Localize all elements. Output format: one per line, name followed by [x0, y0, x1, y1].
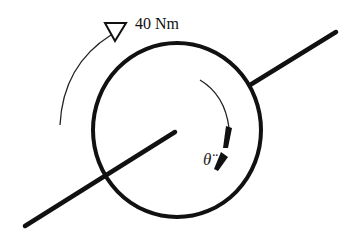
disk-shaft-diagram: 40 Nm θ̈: [0, 0, 356, 241]
shaft-right: [250, 32, 336, 85]
disk-circle: [93, 43, 261, 217]
angular-acceleration-arrow-icon: [223, 126, 232, 148]
angular-acceleration-arrow-tail: [214, 152, 228, 171]
torque-label: 40 Nm: [135, 15, 180, 32]
torque-arc: [60, 35, 111, 125]
torque-arrowhead-icon: [105, 23, 126, 41]
angular-acceleration-arc: [200, 80, 229, 128]
